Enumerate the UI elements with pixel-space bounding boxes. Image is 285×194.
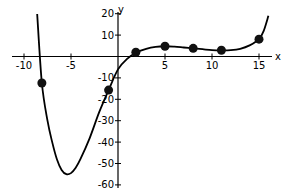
- data-point: [217, 46, 226, 55]
- data-point: [255, 35, 264, 44]
- x-tick-label: 10: [206, 60, 219, 71]
- curve-line: [37, 14, 268, 175]
- x-tick-label: 5: [162, 60, 168, 71]
- y-axis-label: y: [118, 4, 124, 15]
- y-tick-label: 10: [101, 30, 114, 41]
- x-tick-label: 15: [253, 60, 266, 71]
- data-point: [189, 44, 198, 53]
- y-tick-label: -30: [98, 115, 114, 126]
- data-point: [37, 79, 46, 88]
- chart: -10-5510152010-10-20-30-40-50-60xy: [0, 0, 285, 194]
- y-tick-label: 20: [101, 8, 114, 19]
- x-tick-label: -5: [66, 60, 76, 71]
- y-tick-label: -40: [98, 137, 114, 148]
- x-tick-label: -10: [16, 60, 32, 71]
- data-point: [161, 42, 170, 51]
- y-tick-label: -60: [98, 179, 114, 190]
- data-point: [131, 48, 140, 57]
- data-point: [104, 86, 113, 95]
- plot-area: -10-5510152010-10-20-30-40-50-60xy: [0, 0, 285, 194]
- x-axis-label: x: [275, 51, 281, 62]
- y-tick-label: -50: [98, 158, 114, 169]
